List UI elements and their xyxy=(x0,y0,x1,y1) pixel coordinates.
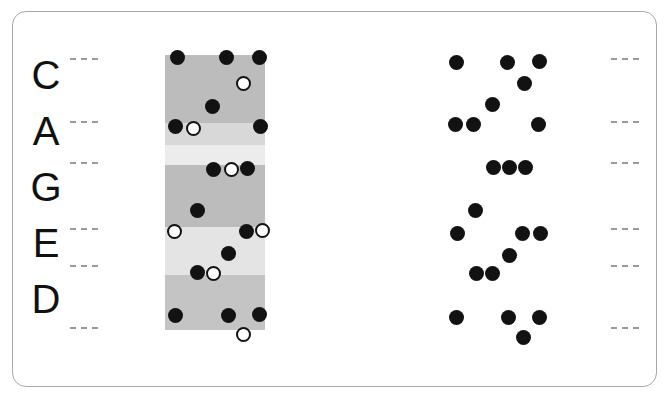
shape-dot-9 xyxy=(502,160,517,175)
shape-dot-18 xyxy=(449,310,464,325)
fretboard-dot-filled-10 xyxy=(240,161,255,176)
fret-marker-right-2 xyxy=(611,162,639,164)
fretboard-dot-open-9 xyxy=(224,162,239,177)
shape-dot-0 xyxy=(449,55,464,70)
shape-dot-17 xyxy=(485,266,500,281)
shape-dot-20 xyxy=(532,310,547,325)
chord-shapes xyxy=(430,45,575,345)
fretboard-dot-open-12 xyxy=(167,224,182,239)
fret-band-5 xyxy=(165,275,265,330)
fretboard-dot-filled-13 xyxy=(239,224,254,239)
caged-letter-e: E xyxy=(23,223,69,263)
fret-marker-left-3 xyxy=(70,228,98,230)
fret-marker-left-1 xyxy=(70,121,98,123)
caged-letter-d: D xyxy=(23,279,69,319)
fretboard-dot-filled-15 xyxy=(221,246,236,261)
caged-letter-c: C xyxy=(23,55,69,95)
fret-marker-right-0 xyxy=(611,58,639,60)
caged-letter-g: G xyxy=(23,167,69,207)
shape-dot-7 xyxy=(531,117,546,132)
fretboard-dot-open-21 xyxy=(236,327,251,342)
fretboard-dot-filled-19 xyxy=(221,308,236,323)
shape-dot-14 xyxy=(533,226,548,241)
fretboard-dot-filled-8 xyxy=(206,162,221,177)
shape-dot-1 xyxy=(500,55,515,70)
fret-marker-right-5 xyxy=(611,327,639,329)
fretboard-dot-open-3 xyxy=(236,76,251,91)
shape-dot-12 xyxy=(450,226,465,241)
shape-dot-16 xyxy=(469,266,484,281)
diagram-page: CAGED xyxy=(0,0,669,399)
shape-dot-5 xyxy=(448,117,463,132)
fretboard-dot-open-6 xyxy=(186,121,201,136)
shape-dot-11 xyxy=(468,203,483,218)
fretboard-dot-filled-20 xyxy=(252,307,267,322)
shape-dot-13 xyxy=(515,226,530,241)
fret-marker-left-5 xyxy=(70,327,98,329)
shape-dot-6 xyxy=(466,117,481,132)
shape-dot-19 xyxy=(501,310,516,325)
fret-marker-left-0 xyxy=(70,58,98,60)
fretboard-dot-filled-11 xyxy=(190,203,205,218)
shape-dot-8 xyxy=(486,160,501,175)
fretboard-dot-filled-4 xyxy=(205,99,220,114)
shape-dot-4 xyxy=(485,97,500,112)
caged-letter-a: A xyxy=(23,111,69,151)
shape-dot-2 xyxy=(532,54,547,69)
shape-dot-21 xyxy=(516,330,531,345)
fret-marker-left-4 xyxy=(70,265,98,267)
fretboard-dot-open-14 xyxy=(255,223,270,238)
fret-marker-left-2 xyxy=(70,162,98,164)
shape-dot-3 xyxy=(517,76,532,91)
fretboard-dot-filled-5 xyxy=(168,119,183,134)
fretboard-dot-filled-16 xyxy=(190,265,205,280)
fret-marker-right-1 xyxy=(611,121,639,123)
fretboard-dot-filled-7 xyxy=(253,119,268,134)
fretboard-dot-filled-2 xyxy=(252,50,267,65)
fret-marker-right-4 xyxy=(611,265,639,267)
fretboard-dot-filled-0 xyxy=(170,50,185,65)
caged-letters: CAGED xyxy=(23,55,69,345)
fretboard xyxy=(165,55,265,330)
fret-marker-right-3 xyxy=(611,228,639,230)
shape-dot-10 xyxy=(518,160,533,175)
fretboard-dot-filled-1 xyxy=(219,50,234,65)
shape-dot-15 xyxy=(502,248,517,263)
fretboard-dot-filled-18 xyxy=(168,308,183,323)
fretboard-dot-open-17 xyxy=(206,266,221,281)
